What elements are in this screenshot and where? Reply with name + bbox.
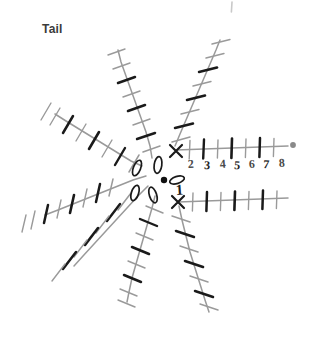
arm-down <box>118 196 163 307</box>
tick-label-2: 2 <box>187 157 194 171</box>
tick-label-4: 4 <box>219 157 226 171</box>
arm-upper-right <box>172 40 230 147</box>
arm-upper-left <box>41 103 142 172</box>
arm-right <box>170 138 296 159</box>
arm-lower-right <box>172 191 288 313</box>
tick-number-labels: 1 2 3 4 5 6 7 8 <box>175 156 285 198</box>
tick-label-5: 5 <box>234 158 241 172</box>
center-cluster <box>115 156 185 204</box>
top-tick-mark <box>231 2 232 12</box>
center-ellipse <box>147 186 159 204</box>
center-ellipse-group <box>115 156 185 204</box>
figure-canvas: 1 2 3 4 5 6 7 8 Tail <box>0 0 312 355</box>
tick-label-8: 8 <box>278 156 285 170</box>
tick-label-7: 7 <box>263 157 270 171</box>
arm-up <box>108 49 160 158</box>
center-ellipse <box>129 184 141 201</box>
arm-left <box>22 172 146 232</box>
tick-label-6: 6 <box>249 157 255 171</box>
center-ellipse <box>153 156 163 174</box>
tick-label-3: 3 <box>204 158 210 172</box>
tail-label: Tail <box>42 22 63 36</box>
arm-right-end-dot <box>290 142 296 148</box>
center-dot <box>161 177 167 183</box>
radial-tick-diagram: 1 2 3 4 5 6 7 8 <box>0 0 312 355</box>
tick-label-1: 1 <box>175 182 184 198</box>
